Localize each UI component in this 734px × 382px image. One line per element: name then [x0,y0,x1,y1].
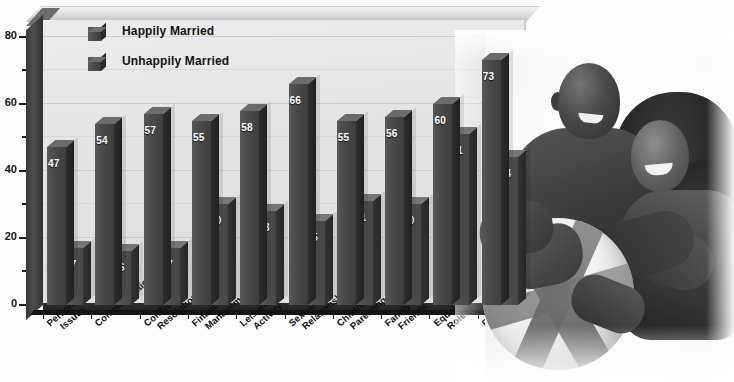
y-axis: 020406080 [0,0,28,382]
bar-side [83,241,91,305]
bar-side [373,194,381,305]
bar-face [192,121,211,305]
bar-face [385,117,404,305]
y-axis-tick-minor [0,137,28,138]
bar: 73 [482,60,501,305]
y-axis-tick-label: 80 [5,29,17,41]
chart-frame-left-wall [26,15,43,320]
bar-face [337,121,356,305]
bar-side [259,104,267,305]
bar: 47 [47,147,66,305]
y-axis-tick-minor [0,70,28,71]
y-axis-tick-major: 20 [0,238,28,239]
bar-face [482,60,501,305]
bar-side [452,97,460,305]
x-axis-tick [285,312,286,319]
x-axis-tick [236,312,237,319]
bar: 55 [192,121,211,305]
y-axis-tick-minor [0,204,28,205]
legend-item-happily-married: Happily Married [66,20,286,50]
bar-group: 5630 [381,20,429,305]
x-axis-tick [333,312,334,319]
x-axis-tick [188,312,189,319]
legend-item-unhappily-married: Unhappily Married [66,50,286,80]
y-axis-tick-major: 60 [0,104,28,105]
bar-side [308,77,316,305]
y-axis-tick-label: 0 [11,297,17,309]
bar-value-label: 58 [241,122,263,133]
bar-chart-3d: 4717541657175530582866255531563060517344… [26,6,526,312]
x-axis-labels: PersonalIssuesCommunicationConflictResol… [26,312,526,382]
legend-label: Unhappily Married [122,54,229,68]
bar-value-label: 56 [386,128,408,139]
bar-side [180,241,188,305]
y-axis-tick-major: 40 [0,171,28,172]
bar-value-label: 60 [434,115,456,126]
bar: 66 [289,84,308,305]
bar: 56 [385,117,404,305]
y-axis-tick-label: 20 [5,230,17,242]
bar-group: 6625 [285,20,333,305]
legend: Happily Married Unhappily Married [66,20,286,80]
x-axis-tick [429,312,430,319]
bar-face [433,104,452,305]
x-axis-tick [91,312,92,319]
x-axis-tick [140,312,141,319]
chart-page: 020406080 471754165717553058286625553156… [0,0,734,382]
bar-face [144,114,163,305]
bar: 57 [144,114,163,305]
bar-value-label: 73 [483,71,505,82]
bar-side [276,204,284,305]
y-axis-tick-major: 0 [0,305,28,306]
bar: 54 [95,124,114,305]
bar-face [289,84,308,305]
bar-group: 5531 [333,20,381,305]
bar: 58 [240,111,259,305]
legend-swatch-icon [88,24,106,41]
x-axis-tick [381,312,382,319]
bar-value-label: 66 [290,95,312,106]
bar-side [163,107,171,305]
bar-value-label: 54 [96,135,118,146]
legend-label: Happily Married [122,24,214,38]
bar-value-label: 55 [193,132,215,143]
bar-side [325,214,333,305]
x-axis-tick [43,312,44,319]
bar: 60 [433,104,452,305]
bar-side [131,245,139,305]
bar-value-label: 55 [338,132,360,143]
y-axis-tick-major: 80 [0,37,28,38]
bar-face [240,111,259,305]
bar-side [228,198,236,305]
bar: 55 [337,121,356,305]
bar-side [421,198,429,305]
bar-value-label: 57 [145,125,167,136]
legend-swatch-icon [88,54,106,71]
bar-side [404,111,412,305]
bar-face [95,124,114,305]
y-axis-tick-label: 40 [5,163,17,175]
bar-value-label: 47 [48,158,70,169]
bar-side [501,54,509,305]
y-axis-tick-minor [0,271,28,272]
y-axis-tick-label: 60 [5,96,17,108]
bar-face [47,147,66,305]
